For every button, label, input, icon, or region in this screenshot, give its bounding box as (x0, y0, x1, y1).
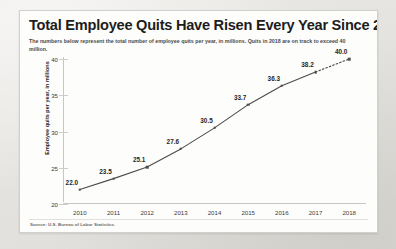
data-point-label: 23.5 (99, 168, 111, 175)
data-point-label: 30.5 (200, 117, 212, 124)
series-line (63, 59, 366, 204)
data-point-marker (79, 188, 82, 191)
plot-wrapper: Employee quits per year, in millions 202… (29, 57, 370, 217)
data-point-label: 38.2 (301, 61, 313, 68)
data-point-marker (281, 85, 284, 88)
data-point-label: 27.6 (167, 138, 179, 145)
plot-area: 2025303540 20102011201220132014201520162… (63, 59, 366, 204)
x-tick-label: 2018 (342, 209, 356, 216)
y-tick-label: 30 (51, 128, 58, 135)
data-point-label: 36.3 (268, 75, 280, 82)
source-note: Source: U.S. Bureau of Labor Statistics. (30, 222, 115, 227)
data-point-marker (348, 58, 351, 61)
chart-card-inner: Total Employee Quits Have Risen Every Ye… (20, 11, 377, 232)
line-projection-segment (316, 59, 350, 72)
data-point-marker (112, 177, 115, 180)
x-tick-label: 2015 (241, 209, 255, 216)
chart-card: Total Employee Quits Have Risen Every Ye… (19, 10, 378, 233)
data-point-label: 25.1 (133, 156, 145, 163)
x-tick-label: 2016 (275, 209, 289, 216)
data-point-marker (180, 148, 183, 151)
line-solid-segment (80, 72, 316, 189)
x-tick-label: 2014 (208, 209, 222, 216)
x-tick-label: 2012 (140, 209, 154, 216)
x-tick-label: 2017 (309, 209, 323, 216)
data-point-label: 33.7 (234, 94, 246, 101)
y-tick-label: 40 (51, 56, 58, 63)
footer-divider (29, 219, 368, 220)
y-tick-label: 20 (51, 201, 58, 208)
chart-subtitle: The numbers below represent the total nu… (29, 37, 359, 53)
y-axis-title: Employee quits per year, in millions (44, 48, 50, 168)
y-tick-label: 35 (51, 92, 58, 99)
data-point-marker (247, 103, 250, 106)
data-point-marker (213, 127, 216, 130)
x-tick-label: 2011 (107, 209, 120, 216)
data-point-label: 40.0 (335, 48, 347, 55)
data-point-marker (146, 166, 149, 169)
data-point-label: 22.0 (66, 179, 78, 186)
y-tick-mark (59, 204, 68, 205)
data-point-marker (314, 71, 317, 74)
chart-title: Total Employee Quits Have Risen Every Ye… (29, 17, 368, 33)
y-tick-label: 25 (51, 164, 58, 171)
x-tick-label: 2013 (174, 209, 188, 216)
x-tick-label: 2010 (73, 209, 87, 216)
